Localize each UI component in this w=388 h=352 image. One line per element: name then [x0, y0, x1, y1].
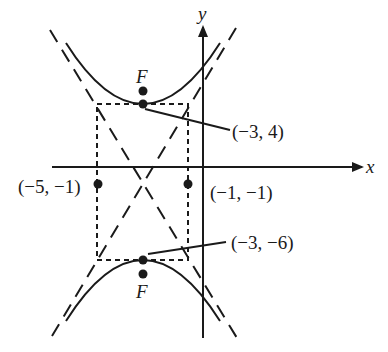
- left-rect-point-label: (−5, −1): [18, 176, 81, 198]
- upper-vertex-point: [139, 100, 148, 109]
- upper-focus-point: [139, 87, 148, 96]
- upper-vertex-label: (−3, 4): [232, 121, 284, 143]
- x-axis-label: x: [365, 156, 375, 177]
- hyperbola-diagram: y x F F (−3, 4) (−3, −6) (−5, −1) (−1, −…: [0, 0, 388, 352]
- y-axis-label: y: [196, 3, 207, 24]
- right-rect-point-label: (−1, −1): [210, 182, 273, 204]
- lower-focus-point: [139, 270, 148, 279]
- right-rect-point: [184, 180, 193, 189]
- lower-focus-label: F: [135, 281, 148, 302]
- leader-line-lower-vertex: [148, 242, 226, 254]
- upper-focus-label: F: [135, 66, 148, 87]
- left-rect-point: [94, 180, 103, 189]
- lower-vertex-label: (−3, −6): [231, 232, 294, 254]
- lower-vertex-point: [139, 256, 148, 265]
